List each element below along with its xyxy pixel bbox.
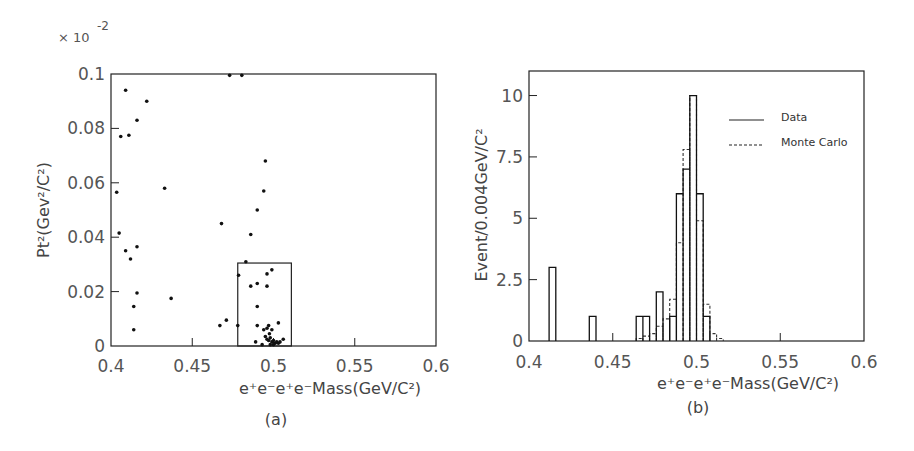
data-point xyxy=(218,324,222,328)
data-point xyxy=(260,343,264,347)
data-point xyxy=(268,343,272,347)
y-tick-label: 0.06 xyxy=(67,173,105,193)
data-point xyxy=(270,328,274,332)
plot-frame-a xyxy=(111,74,436,346)
data-point xyxy=(236,324,240,328)
x-axis-label-a: e⁺e⁻e⁺e⁻Mass(GeV/C²) xyxy=(239,379,421,398)
y-tick-label: 10 xyxy=(501,86,523,106)
data-point xyxy=(124,249,128,253)
y-axis-label-b: Event/0.004GeV/C² xyxy=(472,128,491,281)
data-point xyxy=(264,159,268,163)
data-point xyxy=(228,74,232,78)
x-tick-label: 0.5 xyxy=(260,356,287,376)
x-tick-label: 0.5 xyxy=(683,352,710,372)
data-point xyxy=(255,282,259,286)
data-point xyxy=(262,189,266,193)
data-point xyxy=(254,340,258,344)
scatter-points xyxy=(115,74,285,347)
x-tick-label: 0.55 xyxy=(336,356,374,376)
data-point xyxy=(255,324,259,328)
data-point xyxy=(135,291,139,295)
data-point xyxy=(145,99,149,103)
figure: × 10 -2 0.40.450.50.550.6 00.020.040.060… xyxy=(0,0,914,451)
data-point xyxy=(278,340,282,344)
x-tick-label: 0.4 xyxy=(97,356,124,376)
panel-b: 0.40.450.50.550.6 02.557.510 Data Monte … xyxy=(472,71,878,417)
data-point xyxy=(135,118,139,122)
data-point xyxy=(249,233,253,237)
data-point xyxy=(255,305,259,309)
data-point xyxy=(244,260,248,264)
data-point xyxy=(265,284,269,288)
data-point xyxy=(117,231,121,235)
legend: Data Monte Carlo xyxy=(729,111,848,149)
data-point xyxy=(169,297,173,301)
y-tick-label: 7.5 xyxy=(496,147,523,167)
y-axis-label-a: Pt²(Gev²/C²) xyxy=(34,162,53,258)
y-tick-label: 0.1 xyxy=(78,64,105,84)
data-point xyxy=(220,222,224,226)
data-point xyxy=(268,336,272,340)
x-tick-label: 0.45 xyxy=(594,352,632,372)
data-point xyxy=(249,284,253,288)
y-tick-label: 0.04 xyxy=(67,227,105,247)
panel-caption-a: (a) xyxy=(265,410,287,429)
data-point xyxy=(129,257,133,261)
data-point xyxy=(237,273,241,277)
monte-carlo-histogram xyxy=(636,96,723,341)
y-tick-label: 2.5 xyxy=(496,270,523,290)
y-tick-label: 0.02 xyxy=(67,282,105,302)
data-histogram xyxy=(549,96,710,341)
legend-data-label: Data xyxy=(781,111,807,124)
data-point xyxy=(281,337,285,341)
data-point xyxy=(163,186,167,190)
y-tick-label: 0.08 xyxy=(67,118,105,138)
x-tick-label: 0.45 xyxy=(173,356,211,376)
data-point xyxy=(265,272,269,276)
x-tick-label: 0.6 xyxy=(850,352,877,372)
data-point xyxy=(115,191,119,195)
data-point xyxy=(124,89,128,93)
y-axis-b: 02.557.510 xyxy=(496,86,537,351)
y-tick-label: 5 xyxy=(512,208,523,228)
data-point xyxy=(135,245,139,249)
panel-a: × 10 -2 0.40.450.50.550.6 00.020.040.060… xyxy=(34,19,450,429)
y-tick-label: 0 xyxy=(512,331,523,351)
data-point xyxy=(225,318,229,322)
y-tick-label: 0 xyxy=(94,336,105,356)
x-tick-label: 0.6 xyxy=(422,356,449,376)
data-point xyxy=(270,268,274,272)
x-tick-label: 0.4 xyxy=(515,352,542,372)
data-point xyxy=(255,208,259,212)
data-point xyxy=(267,324,271,328)
legend-mc-label: Monte Carlo xyxy=(781,136,848,149)
signal-region-box xyxy=(238,263,292,346)
data-point xyxy=(132,328,136,332)
multiplier-exponent: -2 xyxy=(97,19,109,33)
data-point xyxy=(132,305,136,309)
data-point xyxy=(272,343,276,347)
data-point xyxy=(262,328,266,332)
x-tick-label: 0.55 xyxy=(761,352,799,372)
data-point xyxy=(277,321,281,325)
multiplier-label: × 10 xyxy=(58,30,90,45)
panel-caption-b: (b) xyxy=(687,398,710,417)
data-point xyxy=(127,133,131,137)
data-point xyxy=(119,135,123,139)
data-point xyxy=(268,332,272,336)
data-point xyxy=(240,74,244,78)
x-axis-label-b: e⁺e⁻e⁺e⁻Mass(GeV/C²) xyxy=(657,374,839,393)
